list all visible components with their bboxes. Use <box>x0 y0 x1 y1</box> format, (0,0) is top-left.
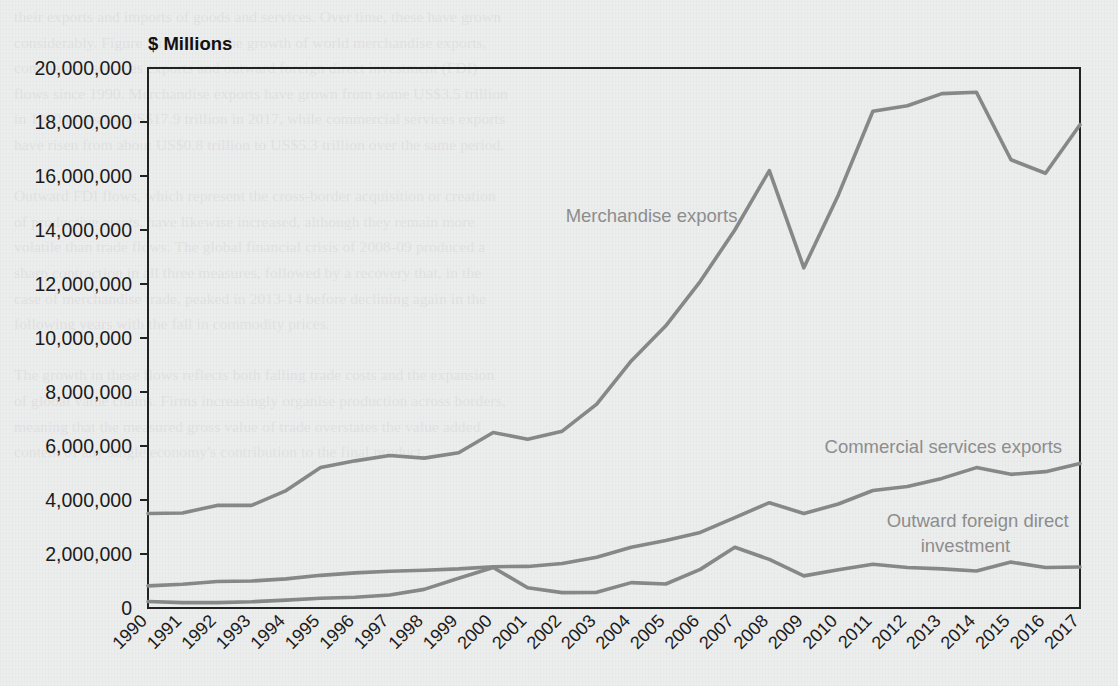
y-axis-tick-labels: 02,000,0004,000,0006,000,0008,000,00010,… <box>34 57 148 619</box>
x-axis-tick-label: 2002 <box>523 611 565 653</box>
x-axis-tick-label: 2011 <box>834 611 876 653</box>
y-axis-tick-label: 14,000,000 <box>34 219 132 241</box>
y-axis-tick-label: 20,000,000 <box>34 57 132 79</box>
chart-canvas: $ Millions 02,000,0004,000,0006,000,0008… <box>0 0 1118 686</box>
x-axis-tick-label: 1997 <box>350 611 392 653</box>
x-axis-tick-label: 1992 <box>177 611 219 653</box>
x-axis-tick-label: 2007 <box>695 611 737 653</box>
x-axis-tick-label: 2013 <box>902 611 944 653</box>
x-axis-tick-label: 2000 <box>454 611 496 653</box>
y-axis-tick-label: 6,000,000 <box>45 435 132 457</box>
y-axis-tick-label: 10,000,000 <box>34 327 132 349</box>
x-axis-tick-label: 1999 <box>419 611 461 653</box>
x-axis-tick-label: 2003 <box>557 611 599 653</box>
y-axis-tick-label: 2,000,000 <box>45 543 132 565</box>
x-axis-tick-label: 2006 <box>661 611 703 653</box>
x-axis-tick-label: 2012 <box>868 611 910 653</box>
series-annotations: Merchandise exportsCommercial services e… <box>566 205 1069 556</box>
y-axis-tick-label: 8,000,000 <box>45 381 132 403</box>
x-axis-tick-label: 1996 <box>315 611 357 653</box>
x-axis-tick-label: 2004 <box>592 611 634 653</box>
series-label: Merchandise exports <box>566 205 738 226</box>
x-axis-tick-label: 2005 <box>626 611 668 653</box>
x-axis-tick-label: 2017 <box>1040 611 1082 653</box>
y-axis-tick-label: 4,000,000 <box>45 489 132 511</box>
x-axis-tick-label: 2001 <box>488 611 530 653</box>
x-axis-tick-label: 1995 <box>281 611 323 653</box>
y-axis-title: $ Millions <box>148 33 232 54</box>
x-axis-tick-label: 2010 <box>799 611 841 653</box>
x-axis-tick-label: 2015 <box>971 611 1013 653</box>
x-axis-tick-label: 1991 <box>143 611 185 653</box>
x-axis-tick-label: 1994 <box>246 611 288 653</box>
series-label: Commercial services exports <box>825 436 1062 457</box>
x-axis-tick-label: 2008 <box>730 611 772 653</box>
x-axis-tick-label: 2014 <box>937 611 979 653</box>
x-axis-tick-label: 2009 <box>764 611 806 653</box>
series-label: Outward foreign directinvestment <box>887 510 1069 556</box>
y-axis-tick-label: 12,000,000 <box>34 273 132 295</box>
line-chart-figure: $ Millions 02,000,0004,000,0006,000,0008… <box>0 0 1118 686</box>
y-axis-tick-label: 16,000,000 <box>34 165 132 187</box>
x-axis-tick-labels: 1990199119921993199419951996199719981999… <box>108 611 1082 653</box>
x-axis-tick-label: 1998 <box>385 611 427 653</box>
x-axis-tick-label: 1993 <box>212 611 254 653</box>
y-axis-tick-label: 18,000,000 <box>34 111 132 133</box>
x-axis-tick-label: 2016 <box>1006 611 1048 653</box>
x-axis-tick-label: 1990 <box>108 611 150 653</box>
